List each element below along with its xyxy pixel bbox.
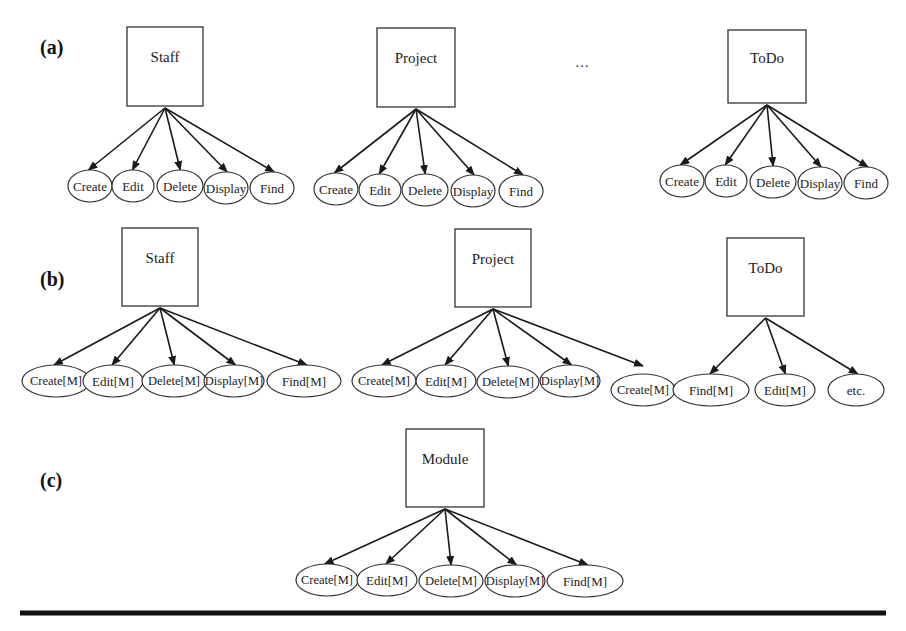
operation-edit-m: Edit[M]	[357, 564, 417, 596]
operation-label: Find	[260, 181, 284, 196]
operation-find: Find	[844, 167, 888, 199]
operation-label: Delete[M]	[148, 374, 200, 388]
operation-label: Edit[M]	[92, 374, 134, 389]
operation-label: Edit[M]	[366, 573, 408, 588]
operation-label: Display	[800, 176, 841, 191]
edge-arrow	[334, 109, 416, 173]
operation-create-m: Create[M]	[296, 564, 358, 596]
operation-label: etc.	[847, 383, 865, 398]
edge-arrow	[325, 509, 445, 564]
operation-label: Create[M]	[301, 573, 353, 587]
bottom-rule-divider	[20, 611, 886, 616]
operation-label: Find[M]	[282, 374, 326, 389]
operation-label: Find	[854, 176, 878, 191]
operation-find-m: Find[M]	[547, 565, 623, 597]
operation-display-m: Display[M]	[204, 365, 264, 397]
edge-arrow	[379, 109, 416, 174]
operation-delete: Delete	[157, 170, 203, 202]
panel-label-b: (b)	[40, 268, 64, 291]
operation-delete-m: Delete[M]	[477, 366, 539, 398]
operation-display-m: Display[M]	[485, 565, 545, 597]
operation-edit-m: Edit[M]	[83, 365, 143, 397]
operation-edit: Edit	[705, 165, 747, 197]
module-box-project	[455, 229, 531, 307]
edge-arrow	[766, 318, 786, 374]
operation-etc: etc.	[828, 374, 884, 406]
operation-label: Create	[73, 179, 107, 194]
operation-find: Find	[250, 172, 294, 204]
module-box-label: Staff	[151, 49, 180, 65]
operation-delete-m: Delete[M]	[142, 365, 206, 397]
edge-arrow	[132, 108, 165, 170]
operation-label: Display	[453, 184, 494, 199]
operation-label: Delete	[408, 183, 442, 198]
operation-label: Create[M]	[617, 383, 669, 397]
edge-arrow	[710, 318, 766, 374]
module-box-project	[377, 28, 455, 107]
module-module-panel-c: ModuleCreate[M]Edit[M]Delete[M]Display[M…	[296, 429, 623, 597]
operation-create: Create	[68, 170, 112, 202]
operation-label: Display[M]	[205, 374, 263, 388]
edge-arrow	[725, 105, 767, 165]
operation-find-m: Find[M]	[267, 365, 341, 397]
operation-edit-m: Edit[M]	[416, 365, 476, 397]
operation-label: Display	[206, 181, 247, 196]
operation-create-m: Create[M]	[611, 374, 675, 406]
module-box-label: Project	[395, 50, 438, 66]
operation-label: Edit	[369, 183, 391, 198]
operation-label: Delete	[163, 179, 197, 194]
operation-label: Delete[M]	[425, 574, 477, 588]
operation-label: Display[M]	[541, 374, 599, 388]
operation-edit: Edit	[112, 170, 154, 202]
edge-arrow	[767, 105, 773, 166]
edge-arrow	[112, 308, 160, 365]
operation-label: Create[M]	[30, 374, 82, 388]
operation-display: Display	[798, 167, 842, 199]
module-box-label: Project	[472, 251, 515, 267]
operation-find: Find	[499, 175, 543, 207]
module-box-label: ToDo	[750, 50, 784, 66]
operation-create: Create	[660, 165, 704, 197]
operation-display-m: Display[M]	[540, 365, 600, 397]
operation-create-m: Create[M]	[22, 365, 90, 397]
operation-label: Find	[509, 184, 533, 199]
edge-arrow	[386, 509, 445, 564]
operation-edit: Edit	[359, 174, 401, 206]
operation-delete: Delete	[402, 174, 448, 206]
edge-arrow	[54, 308, 160, 365]
ellipsis-more-modules: …	[575, 55, 589, 70]
module-box-label: Module	[422, 451, 469, 467]
operation-display: Display	[451, 175, 495, 207]
operation-label: Find[M]	[563, 574, 607, 589]
operation-label: Edit[M]	[764, 383, 806, 398]
operation-display: Display	[204, 172, 248, 204]
edge-arrow	[165, 108, 274, 172]
operation-create: Create	[314, 173, 358, 205]
operation-label: Create[M]	[358, 374, 410, 388]
edge-arrow	[160, 308, 307, 365]
operation-label: Delete[M]	[482, 375, 534, 389]
module-todo-panel-a: ToDoCreateEditDeleteDisplayFind	[660, 30, 888, 199]
module-box-staff	[122, 228, 198, 306]
module-box-todo	[728, 30, 806, 103]
operation-label: Edit	[715, 174, 737, 189]
edge-arrow	[493, 309, 572, 365]
module-box-label: ToDo	[749, 260, 783, 276]
edge-arrow	[382, 309, 493, 365]
operation-label: Edit	[122, 179, 144, 194]
diagram-canvas: StaffCreateEditDeleteDisplayFindProjectC…	[0, 0, 906, 631]
edge-arrow	[89, 108, 166, 170]
panel-label-c: (c)	[40, 469, 62, 492]
module-todo-panel-b: ToDoCreate[M]Find[M]Edit[M]etc.	[611, 238, 884, 406]
operation-label: Create	[665, 174, 699, 189]
module-box-module	[406, 429, 484, 507]
operation-label: Create	[319, 182, 353, 197]
module-box-label: Staff	[146, 250, 175, 266]
module-staff-panel-a: StaffCreateEditDeleteDisplayFind	[68, 27, 294, 204]
edge-arrow	[445, 509, 588, 565]
operation-create-m: Create[M]	[352, 365, 416, 397]
operation-find-m: Find[M]	[673, 374, 749, 406]
operation-label: Find[M]	[689, 383, 733, 398]
panel-labels-layer: (a)…(b)(c)	[20, 36, 886, 616]
operation-delete-m: Delete[M]	[419, 565, 483, 597]
